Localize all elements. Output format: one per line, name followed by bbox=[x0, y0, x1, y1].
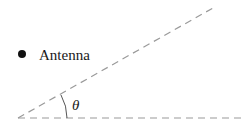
angle-label: θ bbox=[72, 97, 80, 113]
inclined-line bbox=[18, 8, 213, 118]
antenna-dot bbox=[18, 50, 26, 58]
angle-arc bbox=[61, 95, 67, 118]
antenna-label: Antenna bbox=[39, 47, 90, 63]
angle-diagram: Antenna θ bbox=[0, 0, 249, 135]
